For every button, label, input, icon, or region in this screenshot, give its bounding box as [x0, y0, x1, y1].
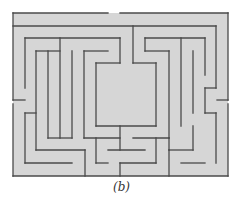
figure-caption: (b): [0, 180, 243, 194]
maze-diagram: [0, 0, 243, 180]
